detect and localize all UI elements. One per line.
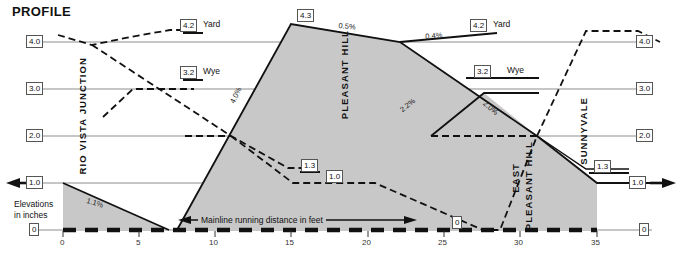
branch-label-yard-right: Yard (493, 19, 510, 29)
yard-branch-line (400, 33, 497, 42)
elevation-marker-summit: 4.3 (297, 9, 314, 22)
y-axis-caption-line1: Elevations (14, 199, 53, 210)
right-arrow-elevation: 1.0 (629, 176, 646, 189)
x-tick-5: 5 (136, 238, 140, 247)
elevation-marker-0-mid: 0 (452, 216, 462, 229)
elevation-marker-1-0-mid: 1.0 (326, 170, 343, 183)
grade-label-0-4: 0.4% (425, 31, 443, 41)
page-title: PROFILE (12, 4, 71, 19)
elevation-marker-wye-left: 3.2 (180, 66, 197, 79)
elevation-marker-1-3-right: 1.3 (594, 160, 611, 173)
x-tick-25: 25 (438, 238, 447, 247)
x-axis-caption: Mainline running distance in feet (198, 215, 326, 225)
x-tick-10: 10 (209, 238, 218, 247)
y-tick-right-2: 2.0 (636, 129, 653, 142)
terrain-fill (63, 24, 597, 230)
y-tick-right-4: 4.0 (636, 35, 653, 48)
place-label-sunnyvale: SUNNYVALE (578, 97, 592, 165)
y-tick-left-0: 0 (29, 223, 39, 236)
y-tick-left-4: 4.0 (26, 35, 43, 48)
place-label-rio-vista-junction: RIO VISTA JUNCTION (77, 57, 91, 174)
x-tick-0: 0 (60, 238, 64, 247)
elevation-marker-yard-left: 4.2 (180, 19, 197, 32)
place-label-east: EAST (510, 163, 522, 193)
y-tick-left-2: 2.0 (26, 129, 43, 142)
elevation-marker-yard-right: 4.2 (470, 19, 487, 32)
right-direction-arrow (650, 178, 676, 188)
branch-label-wye-left: Wye (203, 66, 220, 76)
y-tick-right-0: 0 (639, 223, 649, 236)
place-label-pleasant-hill: PLEASANT HILL (339, 30, 353, 119)
y-tick-left-3: 3.0 (26, 82, 43, 95)
y-axis-caption-line2: in inches (14, 210, 48, 221)
elevation-marker-wye-right: 3.2 (474, 65, 491, 78)
profile-diagram: PROFILE 4.0 3.0 2.0 1.0 0 4.0 3.0 2.0 1.… (0, 0, 682, 255)
x-tick-35: 35 (591, 238, 600, 247)
x-tick-20: 20 (362, 238, 371, 247)
branch-label-yard-left: Yard (203, 19, 220, 29)
x-tick-15: 15 (285, 238, 294, 247)
x-tick-30: 30 (514, 238, 523, 247)
branch-label-wye-right: Wye (507, 65, 524, 75)
place-label-east-pleasant-hill: PLEASANT HILL (523, 141, 535, 230)
y-tick-right-3: 3.0 (636, 82, 653, 95)
left-arrow-elevation: 1.0 (26, 176, 43, 189)
elevation-marker-1-3-mid: 1.3 (301, 159, 318, 172)
